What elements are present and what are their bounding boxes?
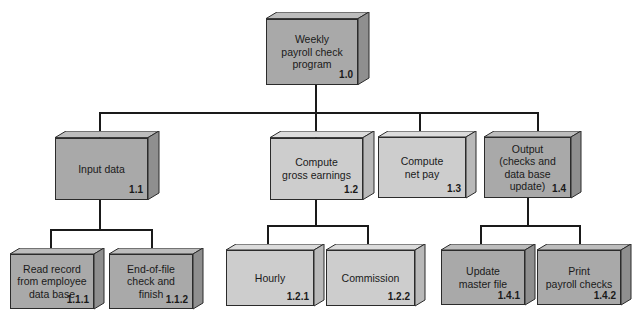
node-1-4: Output (checks and data base update) 1.4 (484, 131, 581, 198)
node-number: 1.4.2 (594, 290, 616, 303)
node-label: Print payroll checks (542, 265, 617, 290)
node-label: Compute gross earnings (278, 156, 355, 181)
node-1-3: Compute net pay 1.3 (378, 131, 476, 198)
node-number: 1.2.2 (388, 291, 410, 304)
node-label: Hourly (251, 272, 289, 285)
box-front: Compute gross earnings 1.2 (270, 138, 363, 200)
node-1-2: Compute gross earnings 1.2 (270, 131, 374, 200)
node-1-1-2: End-of-file check and finish 1.1.2 (109, 248, 203, 309)
node-number: 1.3 (447, 183, 461, 196)
node-1-4-1: Update master file 1.4.1 (441, 244, 535, 305)
box-front: Commission 1.2.2 (326, 250, 415, 306)
node-label: Compute net pay (397, 155, 448, 180)
node-number: 1.1 (129, 184, 143, 197)
node-label: Update master file (455, 265, 511, 290)
node-number: 1.1.1 (67, 294, 89, 307)
node-1-1-1: Read record from employee data base 1.1.… (10, 248, 104, 309)
box-front: Input data 1.1 (55, 138, 148, 200)
box-front: Print payroll checks 1.4.2 (537, 250, 621, 305)
node-1-4-2: Print payroll checks 1.4.2 (537, 244, 631, 305)
node-1-2-1: Hourly 1.2.1 (226, 244, 324, 306)
node-1-0: Weekly payroll check program 1.0 (266, 12, 369, 85)
node-number: 1.4 (552, 183, 566, 196)
box-front: Weekly payroll check program 1.0 (266, 19, 358, 85)
hierarchy-diagram: Weekly payroll check program 1.0 Input d… (0, 0, 641, 316)
box-front: End-of-file check and finish 1.1.2 (109, 254, 193, 309)
node-label: Input data (74, 163, 129, 176)
box-front: Hourly 1.2.1 (226, 250, 314, 306)
box-front: Compute net pay 1.3 (378, 137, 466, 198)
node-number: 1.0 (339, 69, 353, 82)
node-number: 1.1.2 (166, 294, 188, 307)
node-number: 1.4.1 (498, 290, 520, 303)
node-1-2-2: Commission 1.2.2 (326, 244, 425, 306)
box-front: Read record from employee data base 1.1.… (10, 254, 94, 309)
node-label: Weekly payroll check program (277, 33, 346, 71)
node-1-1: Input data 1.1 (55, 131, 159, 200)
node-number: 1.2 (344, 184, 358, 197)
node-number: 1.2.1 (287, 291, 309, 304)
box-front: Output (checks and data base update) 1.4 (484, 137, 571, 198)
node-label: Commission (338, 272, 404, 285)
box-front: Update master file 1.4.1 (441, 250, 525, 305)
